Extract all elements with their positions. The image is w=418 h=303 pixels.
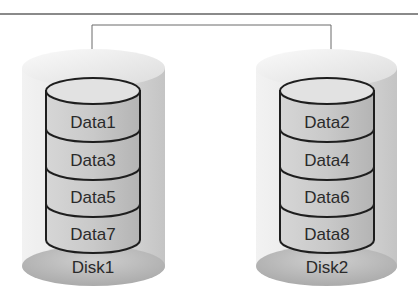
block-label: Data5 (70, 188, 115, 207)
raid0-diagram: Data1 Data3 Data5 Data7 Disk1 Data2 Data… (0, 0, 418, 303)
block-label: Data4 (304, 151, 349, 170)
block-label: Data1 (70, 113, 115, 132)
disk-2: Data2 Data4 Data6 Data8 Disk2 (256, 49, 397, 286)
block-label: Data2 (304, 113, 349, 132)
disk-label: Disk2 (306, 258, 349, 277)
block-label: Data3 (70, 151, 115, 170)
disk-1-stack-top (46, 78, 140, 104)
disk-1: Data1 Data3 Data5 Data7 Disk1 (22, 49, 165, 286)
block-label: Data6 (304, 188, 349, 207)
disk-label: Disk1 (72, 258, 115, 277)
block-label: Data8 (304, 225, 349, 244)
disk-2-stack-top (280, 78, 374, 104)
block-label: Data7 (70, 225, 115, 244)
connector-line (92, 25, 331, 51)
